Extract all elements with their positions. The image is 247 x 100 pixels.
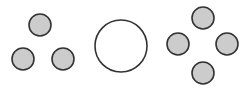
right-circle-right xyxy=(216,33,238,55)
right-circle-top xyxy=(192,7,214,29)
left-circle-top xyxy=(29,14,51,36)
center-large-circle-group xyxy=(95,20,147,72)
left-circle-bottom-left xyxy=(12,48,34,70)
circle-grouping-diagram xyxy=(0,0,247,100)
left-circle-bottom-right xyxy=(52,48,74,70)
center-large-circle xyxy=(95,20,147,72)
figure-canvas xyxy=(0,0,247,100)
right-circle-left xyxy=(167,33,189,55)
right-circle-bottom xyxy=(192,62,214,84)
